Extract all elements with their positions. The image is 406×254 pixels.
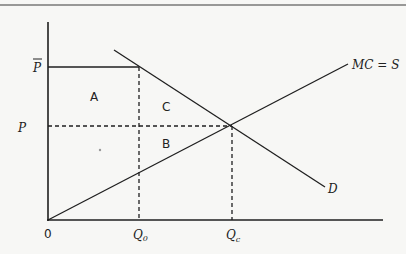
region-c-label: C: [162, 100, 170, 114]
supply-curve-label: MC = S: [351, 58, 399, 72]
print-speck: [99, 149, 101, 151]
p-label: P: [17, 121, 27, 135]
origin-label: 0: [44, 227, 52, 241]
economics-diagram: P P A C B 0 Q0 Qc MC = S D: [0, 0, 406, 254]
demand-curve-label: D: [327, 182, 338, 196]
diagram-frame: P P A C B 0 Q0 Qc MC = S D: [0, 0, 406, 254]
q0-label: Q0: [133, 228, 148, 243]
region-b-label: B: [162, 137, 170, 151]
region-a-label: A: [90, 90, 99, 104]
p-bar-label: P: [32, 61, 42, 75]
supply-mc-curve: [48, 64, 348, 220]
qc-label: Qc: [226, 228, 241, 244]
demand-curve: [114, 50, 325, 187]
